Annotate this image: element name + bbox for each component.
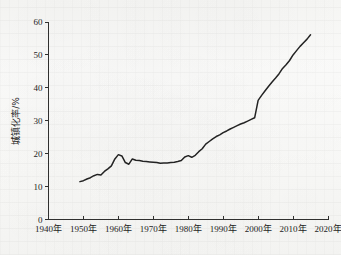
y-axis-tick-label: 40 xyxy=(34,83,44,93)
y-axis-tick-label: 10 xyxy=(34,182,44,192)
x-axis: 1940年1950年1960年1970年1980年1990年2000年2010年… xyxy=(35,216,341,234)
y-axis-tick-label: 50 xyxy=(34,50,44,60)
x-axis-tick-label: 1960年 xyxy=(105,223,132,234)
x-axis-tick-label: 1980年 xyxy=(175,223,202,234)
x-axis-tick-label: 2020年 xyxy=(315,223,341,234)
x-axis-tick-label: 1990年 xyxy=(210,223,237,234)
x-axis-tick-label: 2010年 xyxy=(280,223,307,234)
chart-page: 0102030405060 城镇化率/% 1940年1950年1960年1970… xyxy=(0,0,341,255)
x-axis-tick-label: 1950年 xyxy=(70,223,97,234)
y-axis-tick-label: 20 xyxy=(34,149,44,159)
y-axis-tick-label: 60 xyxy=(34,17,44,27)
y-axis-tick-group xyxy=(45,22,49,220)
data-series-group xyxy=(80,35,311,182)
x-axis-tick-label: 1970年 xyxy=(140,223,167,234)
y-axis-tick-label-group: 0102030405060 xyxy=(34,17,44,225)
y-axis-tick-label: 30 xyxy=(34,116,44,126)
y-axis-title: 城镇化率/% xyxy=(10,97,21,145)
urbanization-rate-line-chart: 0102030405060 城镇化率/% 1940年1950年1960年1970… xyxy=(0,0,341,255)
y-axis: 0102030405060 城镇化率/% xyxy=(10,17,49,225)
x-axis-tick-label: 1940年 xyxy=(35,223,62,234)
x-axis-tick-label-group: 1940年1950年1960年1970年1980年1990年2000年2010年… xyxy=(35,223,341,234)
x-axis-tick-group xyxy=(49,216,329,220)
urbanization-rate-line xyxy=(80,35,311,182)
x-axis-tick-label: 2000年 xyxy=(245,223,272,234)
